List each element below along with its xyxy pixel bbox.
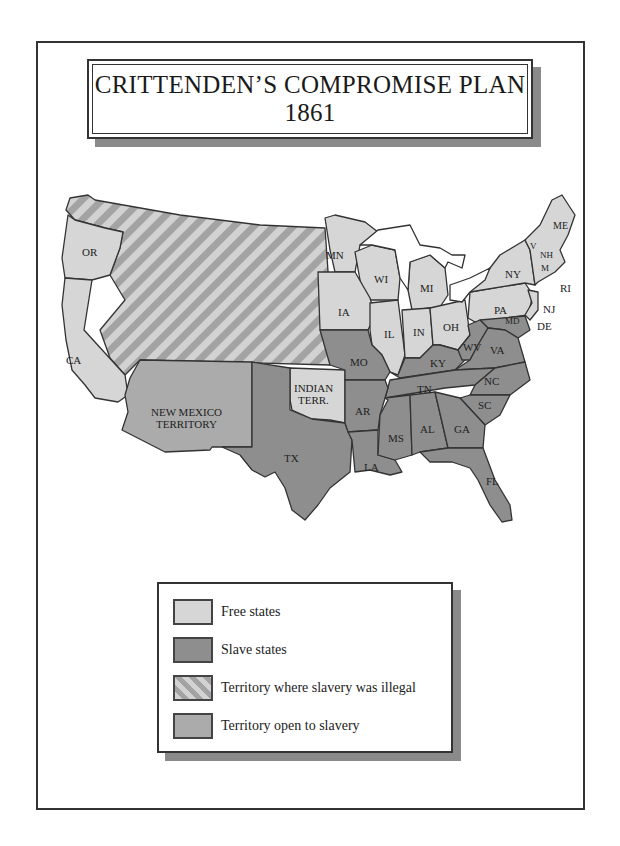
label-WI: WI [374,273,388,285]
legend-item-free-states: Free states [173,598,280,626]
legend-item-territory-illegal: Territory where slavery was illegal [173,674,416,702]
label-TN: TN [417,383,432,395]
label-MS: MS [388,432,404,444]
label-NY: NY [505,268,521,280]
label-GA: GA [454,423,470,435]
label-MA: M [541,262,549,274]
label-new-mexico-2: TERRITORY [156,418,217,430]
label-NH: NH [540,249,553,261]
legend-label: Territory where slavery was illegal [221,680,416,696]
label-NJ: NJ [543,303,555,315]
label-IA: IA [338,306,350,318]
label-indian-territory-1: INDIAN [294,382,333,394]
label-MD: MD [505,315,520,327]
label-SC: SC [478,399,491,411]
territory-illegal [66,195,335,375]
slave-states-swatch [173,637,213,663]
territory-open-swatch [173,713,213,739]
label-OH: OH [443,321,459,333]
label-indian-territory-2: TERR. [298,394,329,406]
label-LA: LA [364,461,379,473]
label-DE: DE [537,320,552,332]
label-ME: ME [553,220,568,232]
legend: Free states Slave states Territory where… [157,582,453,753]
territory-illegal-swatch [173,675,213,701]
label-TX: TX [284,452,299,464]
label-KY: KY [430,357,446,369]
label-VA: VA [490,344,504,356]
label-RI: RI [560,282,571,294]
label-IL: IL [384,328,394,340]
label-AR: AR [355,405,370,417]
free-states-swatch [173,599,213,625]
label-MI: MI [420,282,433,294]
label-OR: OR [82,246,97,258]
label-IN: IN [413,326,425,338]
legend-label: Territory open to slavery [221,718,360,734]
label-new-mexico-1: NEW MEXICO [151,406,222,418]
legend-label: Slave states [221,642,287,658]
label-CA: CA [66,354,81,366]
label-WV: WV [463,341,481,353]
label-NC: NC [484,375,499,387]
legend-item-territory-open: Territory open to slavery [173,712,360,740]
legend-label: Free states [221,604,280,620]
label-MO: MO [350,356,368,368]
label-FL: FL [486,475,499,487]
label-AL: AL [420,423,435,435]
legend-item-slave-states: Slave states [173,636,287,664]
label-VT: V [530,240,537,252]
label-MN: MN [326,249,344,261]
